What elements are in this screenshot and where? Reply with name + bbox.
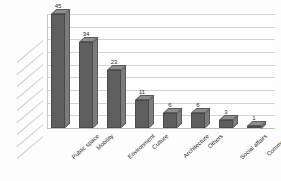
bar-chart: 45 34 23 11 6 <box>0 0 281 181</box>
x-label-social-affairs: Social affairs <box>239 133 269 161</box>
x-label-architecture: Architecture <box>182 133 210 160</box>
x-axis-labels: Public space Mobility Environment Cultur… <box>0 0 281 181</box>
x-label-others: Others <box>207 133 225 150</box>
